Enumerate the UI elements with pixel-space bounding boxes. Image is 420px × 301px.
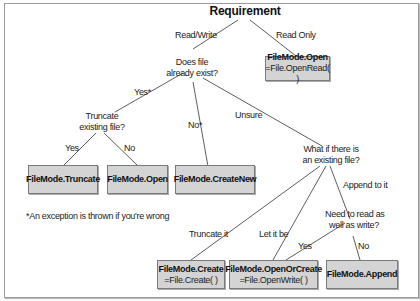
- question-existing: What if there is an existing file?: [298, 144, 364, 166]
- outcome-open-read: FileMode.Open =File.OpenRead( ): [265, 56, 330, 81]
- edge-rw-yes: Yes: [298, 241, 312, 252]
- question-read-write: Need to read as well as write?: [325, 209, 383, 231]
- outcome-append: FileMode.Append: [326, 260, 398, 289]
- edge-truncate-it: Truncate it: [189, 229, 228, 240]
- question-exists: Does file already exist?: [166, 57, 218, 79]
- mode-label: FileMode.Open: [267, 52, 328, 63]
- edge-no-star: No*: [188, 120, 202, 131]
- outcome-create-new: FileMode.CreateNew: [175, 165, 255, 194]
- edge-read-write: Read/Write: [175, 30, 217, 41]
- question-truncate: Truncate existing file?: [76, 111, 128, 133]
- edge-append: Append to it: [343, 180, 387, 191]
- footnote: *An exception is thrown if you're wrong: [26, 211, 169, 222]
- edge-let-it-be: Let it be: [259, 229, 288, 240]
- edge-yes-star: Yes*: [134, 87, 151, 98]
- edge-unsure: Unsure: [235, 110, 262, 121]
- outcome-open-or-create: FileMode.OpenOrCreate =File.OpenWrite( ): [229, 260, 318, 289]
- edge-trunc-no: No: [124, 143, 135, 154]
- edge-read-only: Read Only: [276, 30, 316, 41]
- outcome-create: FileMode.Create =File.Create( ): [157, 260, 225, 289]
- root-requirement: Requirement: [208, 6, 282, 17]
- method-label: =File.OpenRead( ): [265, 63, 329, 85]
- edge-trunc-yes: Yes: [65, 143, 79, 154]
- outcome-truncate: FileMode.Truncate: [28, 165, 98, 194]
- outcome-open: FileMode.Open: [107, 165, 168, 194]
- edge-rw-no: No: [358, 241, 369, 252]
